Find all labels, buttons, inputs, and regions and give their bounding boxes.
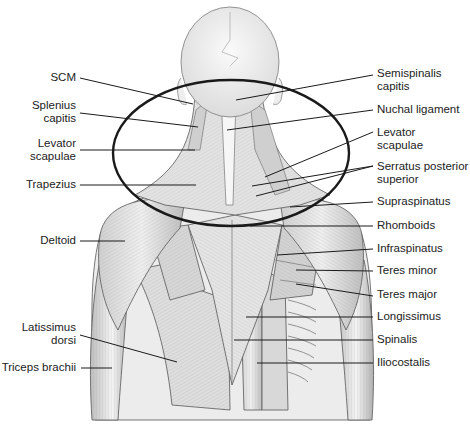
label-rhomboids: Rhomboids [377,219,435,232]
label-supraspinatus: Supraspinatus [377,195,451,208]
label-triceps-brachii: Triceps brachii [2,361,76,374]
label-latissimus-dorsi: Latissimus dorsi [22,321,76,347]
anatomy-diagram: SCM Splenius capitis Levator scapulae Tr… [0,0,470,425]
label-spinalis: Spinalis [377,333,417,346]
label-infraspinatus: Infraspinatus [377,242,443,255]
skull [177,7,282,117]
label-longissimus: Longissimus [377,310,441,323]
label-iliocostalis: Iliocostalis [377,356,430,369]
label-serratus-posterior-superior: Serratus posterior superior [377,160,468,186]
label-teres-minor: Teres minor [377,264,437,277]
label-trapezius: Trapezius [26,178,76,191]
label-splenius-capitis: Splenius capitis [32,99,76,125]
label-deltoid: Deltoid [40,234,76,247]
label-semispinalis-capitis: Semispinalis capitis [377,67,442,93]
label-levator-scapulae-right: Levator scapulae [377,126,423,152]
label-teres-major: Teres major [377,288,437,301]
label-nuchal-ligament: Nuchal ligament [377,103,459,116]
label-scm: SCM [50,71,76,84]
label-levator-scapulae-left: Levator scapulae [30,137,76,163]
